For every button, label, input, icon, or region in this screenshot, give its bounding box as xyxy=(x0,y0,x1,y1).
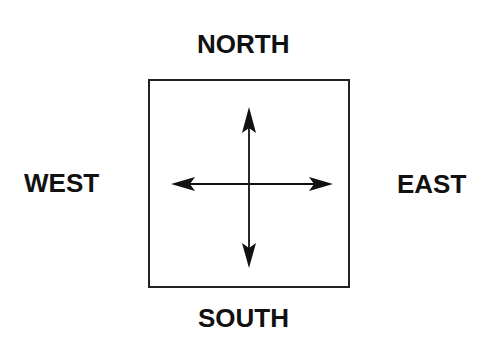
north-label: NORTH xyxy=(197,31,289,57)
south-label: SOUTH xyxy=(198,305,289,331)
west-label: WEST xyxy=(24,170,99,196)
east-label: EAST xyxy=(397,171,466,197)
